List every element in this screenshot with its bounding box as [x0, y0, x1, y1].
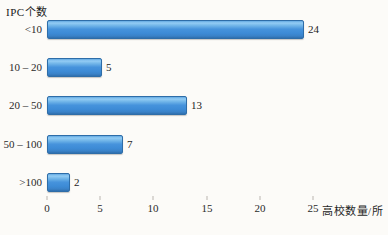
- bar-row: <10 24: [0, 19, 319, 39]
- x-tick-label: 10: [148, 202, 159, 214]
- value-label: 7: [127, 138, 133, 150]
- bar-row: 20 – 50 13: [0, 95, 202, 115]
- category-label: >100: [0, 176, 42, 188]
- horizontal-bar-chart: IPC个数 <10 24 10 – 20 5 20 – 50 13 50 – 1…: [0, 0, 388, 235]
- category-label: 20 – 50: [0, 99, 42, 111]
- value-label: 5: [106, 61, 112, 73]
- bar: [47, 20, 304, 39]
- axis-tick: [207, 196, 208, 200]
- x-tick-label: 15: [202, 202, 213, 214]
- bar: [47, 96, 187, 115]
- category-label: <10: [0, 23, 42, 35]
- axis-tick: [260, 196, 261, 200]
- bar: [47, 58, 102, 77]
- axis-tick: [100, 196, 101, 200]
- axis-tick: [47, 196, 48, 200]
- bar-row: 50 – 100 7: [0, 134, 133, 154]
- x-tick-label: 5: [97, 202, 103, 214]
- x-axis-title: 高校数量/所: [322, 202, 383, 218]
- x-tick-label: 25: [308, 202, 319, 214]
- bar-row: >100 2: [0, 172, 80, 192]
- category-label: 10 – 20: [0, 61, 42, 73]
- value-label: 2: [74, 176, 80, 188]
- x-tick-label: 0: [44, 202, 50, 214]
- bar-row: 10 – 20 5: [0, 57, 112, 77]
- value-label: 13: [191, 99, 202, 111]
- axis-tick: [153, 196, 154, 200]
- bar: [47, 173, 70, 192]
- x-tick-label: 20: [255, 202, 266, 214]
- axis-tick: [313, 196, 314, 200]
- y-axis-title: IPC个数: [6, 3, 48, 19]
- bar: [47, 135, 123, 154]
- category-label: 50 – 100: [0, 138, 42, 150]
- value-label: 24: [308, 23, 319, 35]
